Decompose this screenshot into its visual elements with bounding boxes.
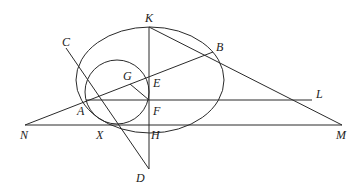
- label-point-M: M: [335, 128, 347, 142]
- segment-GF: [130, 84, 149, 100]
- label-point-X: X: [95, 128, 104, 142]
- label-point-E: E: [152, 76, 161, 90]
- label-point-H: H: [150, 128, 161, 142]
- label-point-L: L: [315, 87, 323, 101]
- point-labels: KBCGEAFLNXHMD: [19, 11, 347, 185]
- segment-NB: [25, 52, 213, 125]
- label-point-D: D: [135, 171, 145, 185]
- label-point-B: B: [216, 40, 224, 54]
- label-point-G: G: [123, 69, 132, 83]
- segment-KM: [149, 27, 342, 125]
- label-point-A: A: [76, 104, 85, 118]
- label-point-F: F: [152, 104, 161, 118]
- label-point-K: K: [144, 11, 154, 25]
- line-segments: [25, 27, 342, 169]
- ellipse: [76, 27, 224, 133]
- geometry-diagram: KBCGEAFLNXHMD: [0, 0, 364, 192]
- label-point-N: N: [19, 128, 29, 142]
- label-point-C: C: [62, 35, 71, 49]
